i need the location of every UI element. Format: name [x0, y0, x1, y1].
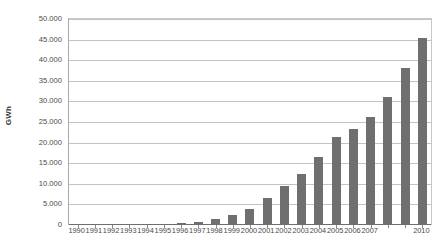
x-axis-baseline: [69, 224, 431, 225]
x-tick-label: 2003: [292, 226, 308, 235]
bar[interactable]: [401, 68, 410, 225]
x-tick-label: 1993: [120, 226, 136, 235]
bar-slot: [414, 19, 431, 225]
bar-slot: [293, 19, 310, 225]
y-tick-label: 50.000: [39, 14, 62, 23]
x-tick-label: 2005: [327, 226, 343, 235]
bar-chart-figure: GWh 05.00010.00015.00020.00025.00030.000…: [0, 0, 442, 251]
x-tick-label: 1994: [137, 226, 153, 235]
bars-layer: [69, 19, 431, 225]
y-axis-tick-labels: 05.00010.00015.00020.00025.00030.00035.0…: [18, 14, 64, 228]
y-axis-title-label: GWh: [5, 105, 14, 124]
bar[interactable]: [263, 198, 272, 225]
x-tick-label: 1992: [103, 226, 119, 235]
bar-slot: [86, 19, 103, 225]
bar-slot: [172, 19, 189, 225]
y-tick-label: 35.000: [39, 75, 62, 84]
x-tick-label: 1997: [189, 226, 205, 235]
x-tick-label: 2001: [258, 226, 274, 235]
bar-slot: [241, 19, 258, 225]
bar-slot: [121, 19, 138, 225]
x-tick-label: 2006: [344, 226, 360, 235]
bar-slot: [276, 19, 293, 225]
bar-slot: [224, 19, 241, 225]
y-tick-label: 25.000: [39, 117, 62, 126]
x-tick-label: 1996: [172, 226, 188, 235]
bar[interactable]: [280, 186, 289, 225]
bar-slot: [397, 19, 414, 225]
y-tick-label: 30.000: [39, 96, 62, 105]
y-tick-label: 5.000: [43, 199, 62, 208]
bar[interactable]: [366, 117, 375, 225]
bar[interactable]: [245, 209, 254, 225]
y-tick-label: 0: [58, 220, 62, 229]
bar-slot: [190, 19, 207, 225]
x-tick-label: 2004: [310, 226, 326, 235]
x-tick-label: 1991: [86, 226, 102, 235]
bar[interactable]: [349, 129, 358, 225]
bar[interactable]: [297, 174, 306, 225]
x-tick-label: 2010: [413, 226, 429, 235]
x-tick-label: 1995: [155, 226, 171, 235]
plot-area: [68, 18, 432, 225]
y-tick-label: 10.000: [39, 178, 62, 187]
bar-slot: [379, 19, 396, 225]
x-tick-label: 1990: [68, 226, 84, 235]
bar-slot: [310, 19, 327, 225]
y-tick-label: 45.000: [39, 34, 62, 43]
bar-slot: [259, 19, 276, 225]
x-tick-label: 1999: [224, 226, 240, 235]
bar[interactable]: [314, 157, 323, 225]
bar[interactable]: [418, 38, 427, 225]
bar-slot: [138, 19, 155, 225]
x-tick-label: 2002: [275, 226, 291, 235]
x-tick-label: 2007: [361, 226, 377, 235]
x-axis-tick-labels: 1990199119921993199419951996199719981999…: [68, 226, 432, 240]
bar-slot: [103, 19, 120, 225]
y-axis-title: GWh: [0, 0, 18, 230]
bar-slot: [69, 19, 86, 225]
x-tick-label: 2000: [241, 226, 257, 235]
bar-slot: [362, 19, 379, 225]
bar-slot: [328, 19, 345, 225]
y-tick-label: 20.000: [39, 137, 62, 146]
bar[interactable]: [383, 97, 392, 225]
bar-slot: [155, 19, 172, 225]
bar[interactable]: [332, 137, 341, 225]
bar-slot: [207, 19, 224, 225]
x-tick-label: 1998: [206, 226, 222, 235]
y-tick-label: 40.000: [39, 55, 62, 64]
y-tick-label: 15.000: [39, 158, 62, 167]
bar-slot: [345, 19, 362, 225]
